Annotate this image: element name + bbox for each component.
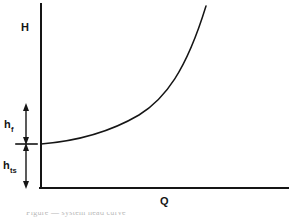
hts-label-main: h	[3, 159, 10, 171]
hf-label-main: h	[4, 118, 11, 130]
head-flow-chart: H Q h f h ts	[0, 0, 300, 218]
figure-container: H Q h f h ts Figure — system	[0, 0, 300, 218]
x-axis-label: Q	[160, 195, 169, 207]
hts-label-subscript: ts	[10, 166, 17, 175]
y-axis-label: H	[21, 21, 29, 33]
hf-label-subscript: f	[11, 125, 14, 134]
hts-label: h ts	[3, 159, 17, 175]
hf-arrowhead-up	[23, 103, 29, 111]
hts-arrowhead-down	[23, 181, 29, 189]
hf-label: h f	[4, 118, 14, 134]
system-head-curve	[41, 6, 206, 144]
